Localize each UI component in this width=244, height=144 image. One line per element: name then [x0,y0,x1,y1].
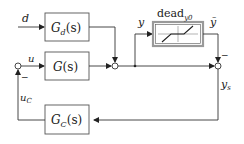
signal-u-label: u [28,53,34,64]
block-gd: Gd(s) [45,13,89,41]
svg-text:Gd(s): Gd(s) [51,21,81,37]
svg-text:G(s): G(s) [53,60,78,74]
signal-y-label: y [137,16,145,29]
sum-junction-output [215,63,221,69]
minus-sign-ytilde: − [221,50,229,60]
sum-junction-input [15,63,21,69]
gd-output-line [89,27,115,62]
sum-junction-disturbance [112,63,118,69]
svg-text:GC(s): GC(s) [51,113,82,129]
block-g: G(s) [45,52,89,80]
signal-d-label: d [22,12,29,25]
block-diagram: d Gd(s) u G(s) y deady0 ỹ − ys [0,0,244,144]
block-gc: GC(s) [45,105,89,134]
branch-to-dead-line [135,34,152,66]
signal-ytilde-label: ỹ [209,16,217,29]
block-deadzone [153,22,203,46]
signal-ys-label: ys [220,78,231,92]
signal-ytilde-line [203,34,218,62]
signal-ys-line [94,69,218,120]
deadzone-label: deady0 [157,7,193,22]
signal-uc-label: uC [20,92,32,105]
minus-sign-uc: − [21,72,29,82]
